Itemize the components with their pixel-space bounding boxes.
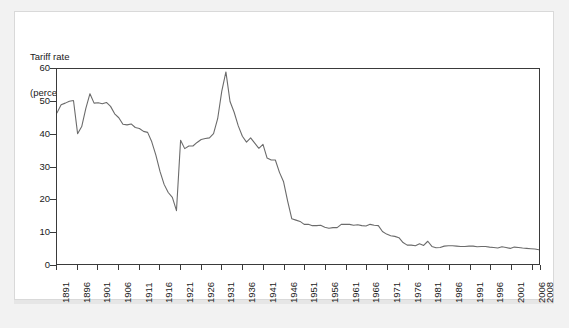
x-axis-tick-label: 1976: [412, 282, 423, 303]
x-axis-tick-label: 1901: [101, 282, 112, 303]
x-axis-tick-label: 1911: [143, 283, 154, 303]
plot-area: [56, 68, 540, 265]
x-axis-tick-mark: [366, 265, 367, 270]
x-axis-tick-mark: [242, 265, 243, 270]
series-plot: [57, 69, 539, 264]
x-axis-tick-mark: [77, 265, 78, 270]
x-axis-tick-label: 1981: [432, 282, 443, 303]
y-axis-tick-label: 60: [28, 63, 50, 73]
y-axis-tick-label: 30: [28, 162, 50, 172]
x-axis-tick-mark: [221, 265, 222, 270]
x-axis-tick-mark: [532, 265, 533, 270]
x-axis-tick-label: 1931: [225, 282, 236, 303]
x-axis-tick-mark: [304, 265, 305, 270]
x-axis-tick-mark: [180, 265, 181, 270]
x-axis-tick-mark: [490, 265, 491, 270]
x-axis-tick-mark: [97, 265, 98, 270]
tariff-rate-line-chart: Tariff rate (percent) 0102030405060 1891…: [0, 0, 569, 328]
x-axis-tick-label: 1986: [453, 282, 464, 303]
x-axis-tick-labels: 1891189619011906191119161921192619311936…: [0, 271, 569, 311]
x-axis-tick-mark: [118, 265, 119, 270]
x-axis-tick-label: 1941: [267, 282, 278, 303]
x-axis-tick-label: 1936: [246, 282, 257, 303]
x-axis-tick-label: 1961: [350, 282, 361, 303]
y-axis-tick-label: 50: [28, 96, 50, 106]
x-axis-tick-label: 1971: [391, 282, 402, 303]
x-axis-tick-mark: [449, 265, 450, 270]
x-axis-tick-label: 1916: [163, 282, 174, 303]
x-axis-tick-label: 1956: [329, 282, 340, 303]
y-axis-tick-label: 20: [28, 194, 50, 204]
x-axis-tick-label: 1921: [184, 282, 195, 303]
tariff-rate-series-line: [57, 72, 539, 250]
x-axis-tick-mark: [346, 265, 347, 270]
x-axis-tick-label: 1891: [60, 282, 71, 303]
y-axis-tick-label: 40: [28, 129, 50, 139]
x-axis-tick-mark: [387, 265, 388, 270]
x-axis-tick-mark: [284, 265, 285, 270]
x-axis-tick-label: 1966: [370, 282, 381, 303]
x-axis-tick-label: 1946: [288, 282, 299, 303]
x-axis-tick-label: 1926: [205, 282, 216, 303]
x-axis-tick-mark: [139, 265, 140, 270]
x-axis-tick-label: 2001: [515, 282, 526, 303]
figure-frame: Tariff rate (percent) 0102030405060 1891…: [0, 0, 569, 328]
x-axis-tick-mark: [325, 265, 326, 270]
x-axis-tick-mark: [408, 265, 409, 270]
x-axis-tick-label: 1991: [474, 282, 485, 303]
x-axis-tick-mark: [159, 265, 160, 270]
x-axis-tick-label: 1896: [81, 282, 92, 303]
x-axis-tick-label: 1906: [122, 282, 133, 303]
x-axis-tick-mark: [201, 265, 202, 270]
y-axis-tick-label: 10: [28, 227, 50, 237]
x-axis-tick-mark: [263, 265, 264, 270]
x-axis-tick-label: 1996: [494, 282, 505, 303]
x-axis-tick-mark: [540, 265, 541, 270]
x-axis-tick-label: 2008: [544, 282, 555, 303]
x-axis-tick-mark: [428, 265, 429, 270]
x-axis-tick-mark: [56, 265, 57, 270]
x-axis-tick-mark: [511, 265, 512, 270]
x-axis-tick-mark: [470, 265, 471, 270]
x-axis-tick-label: 1951: [308, 282, 319, 303]
